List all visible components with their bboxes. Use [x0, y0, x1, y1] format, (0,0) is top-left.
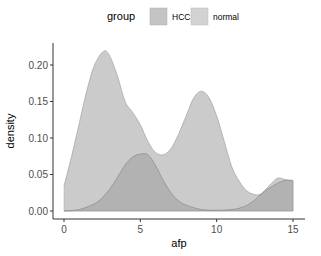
legend-title: group	[107, 10, 135, 22]
legend-label-normal: normal	[213, 12, 239, 22]
plot-area	[64, 51, 293, 211]
legend-label-hcc: HCC	[172, 12, 190, 22]
legend: group HCC normal	[107, 8, 239, 25]
x-axis-ticks: 051015	[61, 219, 299, 235]
x-tick-label: 0	[61, 224, 67, 235]
x-tick-label: 5	[138, 224, 144, 235]
y-tick-label: 0.15	[29, 96, 49, 107]
x-axis-title: afp	[171, 237, 186, 249]
legend-key-normal	[191, 8, 208, 25]
y-tick-label: 0.10	[29, 133, 49, 144]
density-area-normal	[64, 51, 293, 211]
y-axis-ticks: 0.000.050.100.150.20	[29, 60, 53, 217]
legend-key-hcc	[150, 8, 167, 25]
x-tick-label: 15	[287, 224, 299, 235]
y-tick-label: 0.00	[29, 206, 49, 217]
y-tick-label: 0.05	[29, 169, 49, 180]
y-axis-title: density	[4, 113, 16, 148]
x-tick-label: 10	[211, 224, 223, 235]
density-chart: group HCC normal 0.000.050.100.150.20 05…	[0, 0, 321, 256]
y-tick-label: 0.20	[29, 60, 49, 71]
